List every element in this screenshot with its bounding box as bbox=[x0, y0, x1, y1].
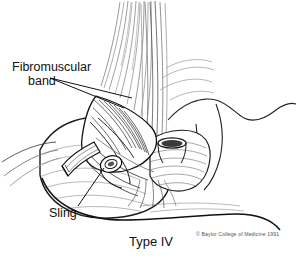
label-fibromuscular-line2: band bbox=[12, 74, 91, 88]
lower-stomach-shading bbox=[140, 203, 244, 212]
diaphragm-soft-lines bbox=[160, 60, 214, 100]
label-fibromuscular-band: Fibromuscular band bbox=[12, 60, 91, 88]
label-fibromuscular-line1: Fibromuscular bbox=[12, 60, 91, 74]
label-sling: Sling bbox=[49, 206, 77, 220]
anatomical-illustration bbox=[0, 0, 302, 258]
copyright-notice: © Baylor College of Medicine 1991 bbox=[196, 231, 279, 237]
